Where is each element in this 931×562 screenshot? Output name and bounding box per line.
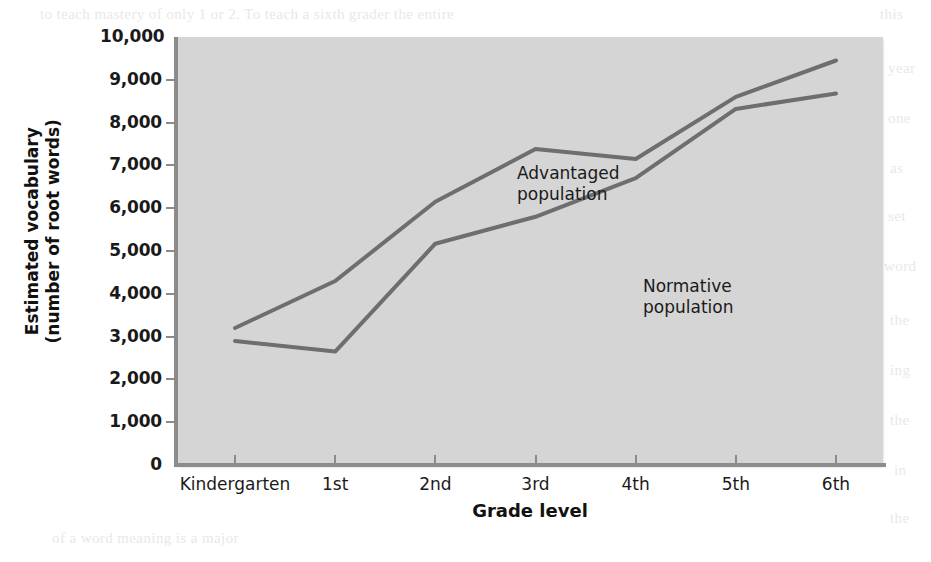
y-tick-label-wrap: 10,000 xyxy=(90,26,162,46)
series-label-advantaged-line1: Advantaged xyxy=(517,163,620,184)
y-tick-6000 xyxy=(166,207,175,209)
ghost-text-0: to teach mastery of only 1 or 2. To teac… xyxy=(40,6,454,23)
x-tick-label-3rd: 3rd xyxy=(521,474,549,494)
y-tick-7000 xyxy=(166,164,175,166)
x-axis-line xyxy=(174,463,886,467)
ghost-text-1: this xyxy=(880,6,903,23)
x-axis-title: Grade level xyxy=(177,500,883,521)
ghost-text-5: set xyxy=(888,208,906,225)
x-tick-label-5th: 5th xyxy=(722,474,750,494)
ghost-text-10: in xyxy=(894,462,906,479)
y-tick-label-8000: 8,000 xyxy=(100,112,162,132)
y-axis-line xyxy=(174,37,178,467)
y-tick-label-1000: 1,000 xyxy=(100,411,162,431)
y-tick-label-wrap: 3,000 xyxy=(90,326,162,346)
y-tick-2000 xyxy=(166,378,175,380)
series-label-normative-line2: population xyxy=(643,297,733,318)
y-tick-label-wrap: 1,000 xyxy=(90,411,162,431)
y-tick-label-9000: 9,000 xyxy=(100,69,162,89)
x-tick-label-1st: 1st xyxy=(322,474,348,494)
y-tick-8000 xyxy=(166,122,175,124)
x-tick-3rd xyxy=(535,455,537,464)
y-axis-title: Estimated vocabulary (number of root wor… xyxy=(22,66,65,396)
y-tick-label-6000: 6,000 xyxy=(100,197,162,217)
y-tick-label-2000: 2,000 xyxy=(100,368,162,388)
y-tick-label-wrap: 7,000 xyxy=(90,154,162,174)
ghost-text-6: word xyxy=(884,258,916,275)
y-tick-label-wrap: 4,000 xyxy=(90,283,162,303)
x-tick-2nd xyxy=(434,455,436,464)
ghost-text-2: year xyxy=(888,60,915,77)
x-tick-label-4th: 4th xyxy=(622,474,650,494)
y-axis-title-line2: (number of root words) xyxy=(43,66,64,396)
y-tick-label-4000: 4,000 xyxy=(100,283,162,303)
ghost-text-8: ing xyxy=(890,362,910,379)
y-tick-label-10000: 10,000 xyxy=(100,26,162,46)
ghost-text-4: as xyxy=(890,160,903,177)
x-tick-label-kindergarten: Kindergarten xyxy=(180,474,291,494)
y-tick-label-wrap: 6,000 xyxy=(90,197,162,217)
x-tick-kindergarten xyxy=(234,455,236,464)
y-tick-1000 xyxy=(166,421,175,423)
y-tick-label-wrap: 0 xyxy=(90,454,162,474)
ghost-text-3: one xyxy=(888,110,911,127)
plot-area: Advantaged population Normative populati… xyxy=(177,37,883,465)
y-tick-label-wrap: 9,000 xyxy=(90,69,162,89)
series-label-normative-line1: Normative xyxy=(643,276,733,297)
x-tick-5th xyxy=(735,455,737,464)
ghost-text-11: the xyxy=(890,510,910,527)
ghost-text-7: the xyxy=(890,312,910,329)
ghost-text-12: of a word meaning is a major xyxy=(52,530,239,547)
y-tick-4000 xyxy=(166,293,175,295)
y-tick-label-wrap: 5,000 xyxy=(90,240,162,260)
y-tick-label-5000: 5,000 xyxy=(100,240,162,260)
y-tick-3000 xyxy=(166,336,175,338)
series-label-normative-population: Normative population xyxy=(643,276,733,317)
y-tick-5000 xyxy=(166,250,175,252)
y-tick-label-0: 0 xyxy=(100,454,162,474)
y-axis-title-line1: Estimated vocabulary xyxy=(22,66,43,396)
x-tick-6th xyxy=(835,455,837,464)
series-label-advantaged-population: Advantaged population xyxy=(517,163,620,204)
series-label-advantaged-line2: population xyxy=(517,184,620,205)
ghost-text-9: the xyxy=(890,412,910,429)
series-lines-svg xyxy=(177,37,883,465)
x-tick-label-2nd: 2nd xyxy=(419,474,451,494)
x-tick-4th xyxy=(635,455,637,464)
vocabulary-growth-chart-figure: to teach mastery of only 1 or 2. To teac… xyxy=(0,0,931,562)
x-tick-1st xyxy=(334,455,336,464)
y-tick-label-wrap: 8,000 xyxy=(90,112,162,132)
x-tick-label-6th: 6th xyxy=(822,474,850,494)
y-tick-label-7000: 7,000 xyxy=(100,154,162,174)
y-tick-9000 xyxy=(166,79,175,81)
line-normative-population xyxy=(235,94,836,352)
y-tick-label-3000: 3,000 xyxy=(100,326,162,346)
y-tick-label-wrap: 2,000 xyxy=(90,368,162,388)
